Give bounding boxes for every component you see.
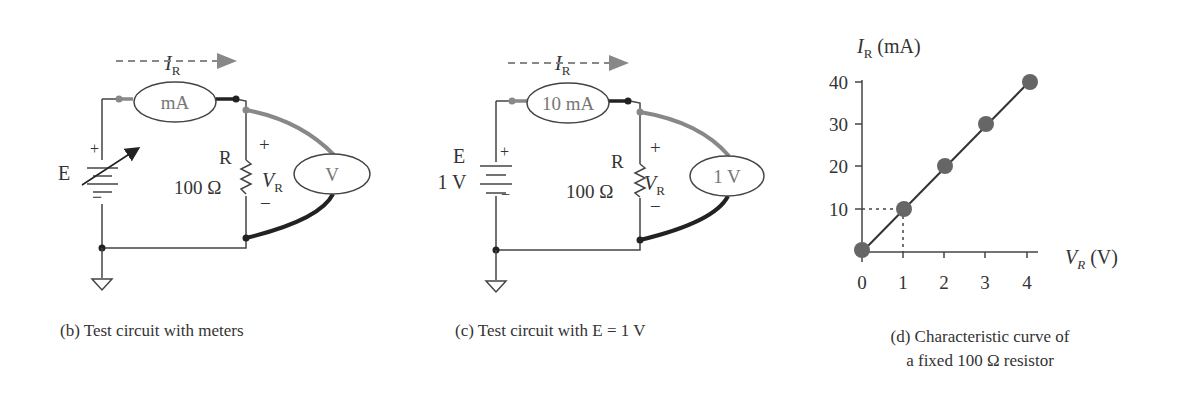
- caption-d-line1: (d) Characteristic curve of: [860, 326, 1100, 348]
- caption-d-line2: a fixed 100 Ω resistor: [860, 350, 1100, 372]
- data-point: [1022, 74, 1038, 90]
- svg-text:1: 1: [898, 272, 908, 293]
- voltmeter: V: [294, 154, 370, 194]
- svg-text:+: +: [650, 137, 661, 158]
- y-ticks: 10 20 30 40: [829, 72, 862, 220]
- svg-text:−: −: [92, 187, 102, 207]
- svg-text:+: +: [500, 143, 509, 160]
- svg-text:20: 20: [829, 156, 848, 177]
- data-point: [854, 242, 870, 258]
- svg-text:10: 10: [829, 199, 848, 220]
- svg-text:+: +: [90, 140, 99, 157]
- svg-text:40: 40: [829, 72, 848, 93]
- svg-text:−: −: [260, 193, 271, 214]
- ground-icon: [92, 279, 112, 290]
- svg-text:4: 4: [1022, 272, 1032, 293]
- svg-text:10 mA: 10 mA: [542, 93, 595, 114]
- x-ticks: 0 1 2 3 4: [857, 252, 1032, 293]
- svg-text:0: 0: [857, 272, 867, 293]
- panel-c-circuit: IR 10 mA + − E 1 V R 100 Ω +: [437, 52, 764, 292]
- panel-b-circuit: IR mA + − E R 100: [58, 52, 370, 290]
- data-point: [937, 158, 953, 174]
- vr-label: VR: [262, 169, 283, 195]
- ground-icon: [486, 281, 506, 292]
- panel-d-chart: IR (mA) 10 20 30 40 0 1 2 3 4 VR (V): [829, 35, 1118, 293]
- voltage-source-battery: + − E 1 V: [437, 143, 516, 203]
- svg-text:1 V: 1 V: [713, 166, 741, 187]
- svg-text:V: V: [325, 164, 339, 185]
- data-point: [896, 201, 912, 217]
- x-axis-label: VR (V): [1065, 246, 1118, 272]
- svg-text:100 Ω: 100 Ω: [174, 177, 221, 198]
- svg-text:3: 3: [980, 272, 990, 293]
- svg-text:E: E: [453, 145, 465, 167]
- data-point: [978, 116, 994, 132]
- svg-text:100 Ω: 100 Ω: [566, 181, 613, 202]
- current-label: IR: [164, 52, 181, 78]
- current-label: IR: [554, 52, 571, 78]
- ammeter: 10 mA: [527, 83, 609, 123]
- svg-text:2: 2: [939, 272, 949, 293]
- resistor: R 100 Ω + VR −: [566, 137, 665, 217]
- resistor: R 100 Ω + VR −: [174, 134, 283, 214]
- caption-c: (c) Test circuit with E = 1 V: [455, 320, 705, 342]
- vr-label: VR: [644, 172, 665, 198]
- ammeter: mA: [134, 82, 216, 122]
- svg-text:1 V: 1 V: [437, 171, 467, 193]
- svg-text:E: E: [58, 162, 70, 184]
- svg-text:30: 30: [829, 114, 848, 135]
- svg-text:mA: mA: [161, 92, 190, 113]
- y-axis-label: IR (mA): [856, 35, 921, 61]
- svg-text:−: −: [501, 186, 510, 203]
- variable-voltage-source: + − E: [58, 140, 134, 207]
- svg-text:R: R: [611, 151, 624, 172]
- svg-text:R: R: [219, 147, 232, 168]
- svg-text:+: +: [259, 134, 270, 155]
- voltmeter: 1 V: [690, 156, 764, 196]
- svg-text:−: −: [650, 196, 661, 217]
- caption-b: (b) Test circuit with meters: [60, 320, 310, 342]
